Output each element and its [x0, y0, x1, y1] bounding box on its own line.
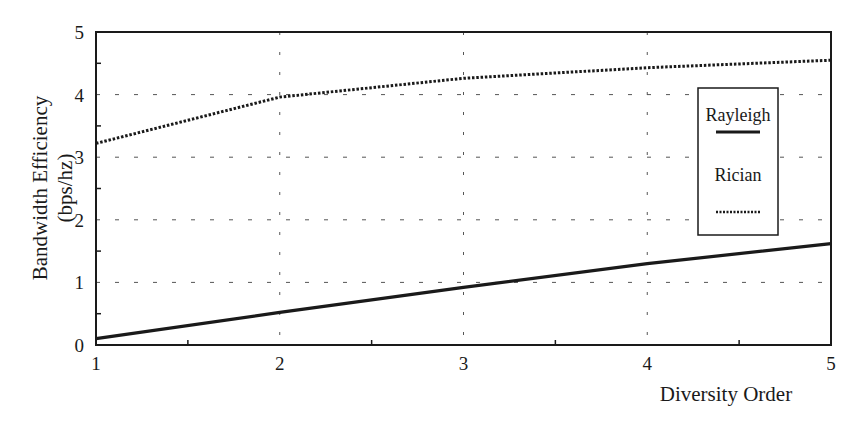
x-tick-label: 1: [91, 353, 101, 374]
chart: 012345 12345 Bandwidth Efficiency (bps/h…: [0, 0, 856, 426]
y-tick-label: 5: [75, 22, 85, 43]
legend: Rayleigh Rician: [698, 88, 778, 235]
axis-minor-ticks: [96, 63, 739, 345]
y-axis-title-line1: Bandwidth Efficiency: [28, 95, 52, 280]
x-axis-title: Diversity Order: [660, 382, 792, 406]
x-tick-label: 4: [643, 353, 653, 374]
x-tick-label: 3: [459, 353, 469, 374]
legend-label-rician: Rician: [715, 165, 762, 185]
y-tick-label: 1: [75, 272, 85, 293]
x-tick-label: 5: [826, 353, 836, 374]
x-axis-tick-labels: 12345: [91, 353, 836, 374]
series-rayleigh: [96, 244, 831, 339]
y-tick-label: 0: [75, 335, 85, 356]
y-axis-title-line2: (bps/hz): [53, 154, 77, 223]
legend-label-rayleigh: Rayleigh: [706, 105, 771, 125]
x-tick-label: 2: [275, 353, 285, 374]
y-tick-label: 4: [75, 85, 85, 106]
